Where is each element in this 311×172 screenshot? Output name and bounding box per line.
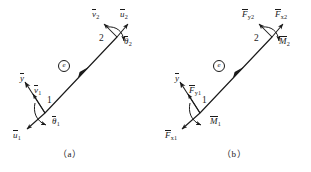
label-M2-b: M2 (279, 36, 290, 46)
beam-axis-a (45, 37, 117, 113)
label-theta1-a: θ1 (52, 116, 60, 126)
element-tag-a: e (58, 60, 70, 72)
label-M1-b: M1 (210, 116, 221, 126)
panel-b-graphics (180, 24, 283, 129)
label-Fy2-b: Fy2 (242, 9, 254, 19)
label-Fx2-b: Fx2 (275, 9, 287, 19)
element-tag-b: e (213, 60, 225, 72)
node-number-2-a: 2 (99, 34, 104, 44)
label-v1-a: v1 (34, 85, 41, 95)
figure-root: v2 u2 2 θ2 e y v1 1 θ1 u1 （a） Fy2 Fx2 2 … (0, 0, 311, 172)
node-number-2-b: 2 (254, 34, 259, 44)
label-u1-a: u1 (13, 130, 21, 140)
label-y-axis-b: y (175, 73, 179, 83)
label-theta2-a: θ2 (124, 36, 132, 46)
label-y-axis-a: y (20, 73, 24, 83)
node-number-1-a: 1 (47, 96, 52, 106)
v2-arrow-a (104, 24, 117, 37)
label-v2-a: v2 (92, 9, 99, 19)
label-u2-a: u2 (120, 9, 128, 19)
caption-a: （a） (58, 150, 82, 159)
diagram-canvas (0, 0, 311, 172)
node-number-1-b: 1 (202, 96, 207, 106)
panel-a-graphics (25, 24, 128, 129)
label-Fx1-b: Fx1 (165, 130, 177, 140)
label-Fy1-b: Fy1 (189, 85, 201, 95)
caption-b: （b） (222, 150, 246, 159)
Fy2-arrow-b (259, 24, 272, 37)
beam-axis-b (200, 37, 272, 113)
